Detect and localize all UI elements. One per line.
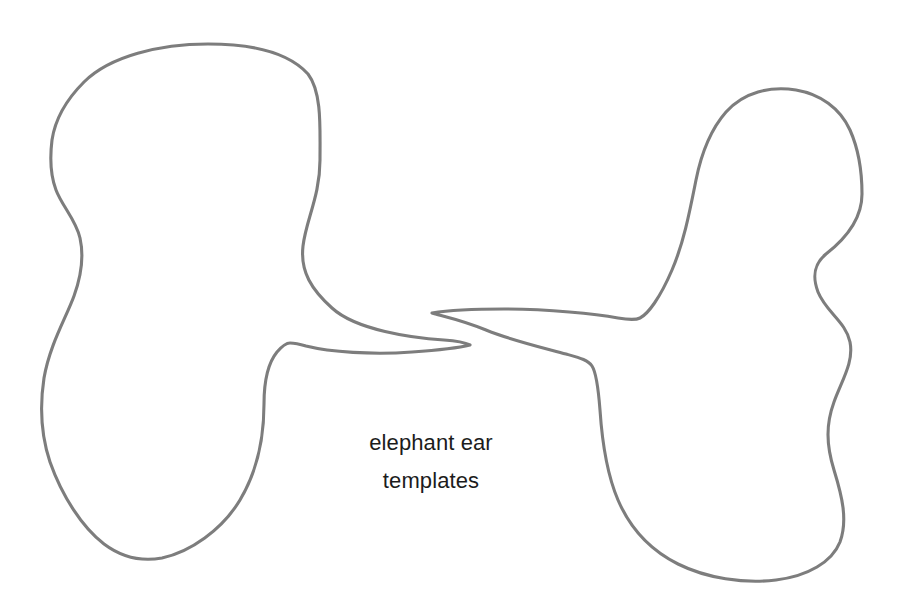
elephant-ear-templates-artwork xyxy=(0,0,904,601)
template-page: elephant ear templates xyxy=(0,0,904,601)
